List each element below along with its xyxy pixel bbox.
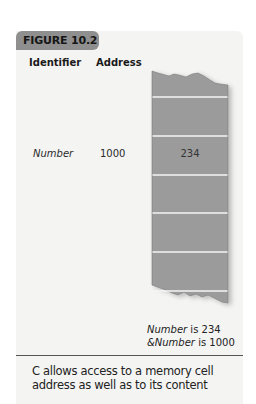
address-value: 1000 <box>100 148 125 159</box>
memory-cell-value: 234 <box>152 148 228 159</box>
memory-column <box>152 68 228 303</box>
annotation-address: &Number is 1000 <box>147 337 235 348</box>
annotation-address-identifier: &Number <box>147 337 195 348</box>
identifier-header: Identifier <box>29 57 81 68</box>
annotation-value: Number is 234 <box>147 324 221 335</box>
figure-label: FIGURE 10.2 <box>16 31 99 50</box>
address-header: Address <box>96 57 142 68</box>
annotation-address-text: is 1000 <box>195 337 235 348</box>
memory-column-graphic <box>152 68 232 308</box>
annotation-value-identifier: Number <box>147 324 187 335</box>
annotation-value-text: is 234 <box>187 324 220 335</box>
figure-caption: C allows access to a memory cell address… <box>32 364 242 392</box>
identifier-number: Number <box>33 148 73 159</box>
caption-divider <box>16 355 243 356</box>
